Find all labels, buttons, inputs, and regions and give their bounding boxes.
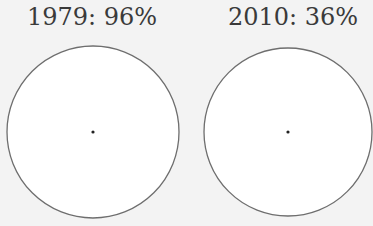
center-dot-1979: [91, 130, 94, 133]
pie-charts: [0, 0, 373, 226]
center-dot-2010: [286, 130, 289, 133]
pie-chart-2010: [204, 48, 372, 216]
pie-chart-1979: [7, 46, 179, 218]
